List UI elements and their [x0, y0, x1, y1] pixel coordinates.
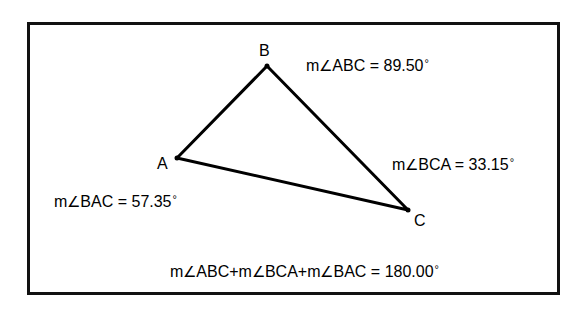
angle-icon: ∠ — [320, 263, 333, 280]
degree-icon: ° — [435, 263, 439, 275]
vertex-b-point[interactable] — [265, 64, 270, 69]
angle-icon: ∠ — [405, 156, 418, 173]
vertex-a-point[interactable] — [175, 156, 180, 161]
degree-icon: ° — [173, 193, 177, 205]
angle-sum-equation: m∠ABC+m∠BCA+m∠BAC = 180.00° — [170, 260, 439, 281]
measure-abc: m∠ABC = 89.50° — [306, 54, 429, 75]
vertex-label-c: C — [414, 212, 426, 230]
vertex-label-a: A — [157, 155, 168, 173]
measure-bac: m∠BAC = 57.35° — [54, 190, 177, 211]
measure-bca: m∠BCA = 33.15° — [392, 153, 514, 174]
angle-icon: ∠ — [183, 263, 196, 280]
angle-icon: ∠ — [252, 263, 265, 280]
triangle-abc — [177, 66, 408, 210]
degree-icon: ° — [425, 57, 429, 69]
vertex-label-b: B — [259, 42, 270, 60]
angle-icon: ∠ — [67, 193, 80, 210]
angle-icon: ∠ — [319, 57, 332, 74]
vertex-c-point[interactable] — [406, 208, 411, 213]
degree-icon: ° — [510, 156, 514, 168]
